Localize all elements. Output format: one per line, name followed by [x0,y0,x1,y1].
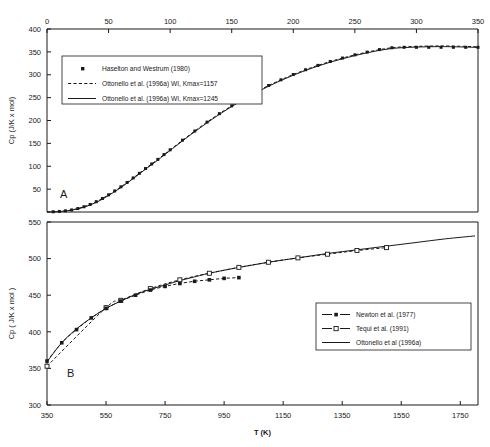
panel-b-datapoint-tequi [355,249,359,253]
panel-a-datapoint [181,139,184,142]
panel-a-datapoint [169,148,172,151]
panel-a-datapoint [366,51,369,54]
panel-a-datapoint [440,46,443,49]
panel-b-datapoint-newton [237,276,241,280]
panel-a-datapoint [70,208,73,211]
panel-b-yaxis-title: Cp ( J/K x mol ) [7,287,16,339]
panel-a-xtick-label: 50 [104,17,112,26]
panel-a-datapoint [206,121,209,124]
panel-a-ytick-label: 250 [28,93,41,102]
panel-b-datapoint-tequi [325,252,329,256]
panel-b-datapoint-tequi [45,364,49,368]
panel-b-xtick-label: 1350 [334,411,351,420]
panel-b-ytick-label: 300 [28,401,41,410]
panel-a-legend-marker [81,67,84,70]
panel-a-datapoint [126,181,129,184]
panel-a-datapoint [119,185,122,188]
panel-a-datapoint [162,153,165,156]
panel-a-datapoint [279,78,282,81]
panel-b-xtick-label: 1150 [275,411,291,420]
panel-a-ytick-label: 100 [28,162,41,171]
panel-b-ytick-label: 350 [28,364,41,373]
panel-b-legend-label: Newton et al. (1977) [356,311,415,319]
panel-a-legend-label: Haselton and Westrum (1980) [102,65,190,73]
panel-a-datapoint [378,48,381,51]
panel-a-datapoint [427,46,430,49]
panel-a-datapoint [218,112,221,115]
panel-a-datapoint [353,53,356,56]
panel-b-xtick-label: 350 [41,411,54,420]
panel-b-ytick-label: 400 [28,328,41,337]
panel-a-ytick-label: 400 [28,25,41,34]
panel-a-datapoint [52,210,55,213]
panel-a-datapoint [230,104,233,107]
panel-a-datapoint [89,203,92,206]
panel-a-datapoint [316,64,319,67]
panel-a: 0501001502002503003505010015020025030035… [7,17,484,213]
panel-b-xaxis-title: T (K) [254,428,272,437]
figure-root: 0501001502002503003505010015020025030035… [0,0,490,447]
panel-b-xtick-label: 950 [218,411,231,420]
panel-b-datapoint-newton [134,293,138,297]
panel-b-label: B [67,367,74,379]
panel-a-datapoint [64,209,67,212]
panel-b-datapoint-newton [89,316,93,320]
panel-b-datapoint-newton [149,288,153,292]
panel-a-datapoint [156,158,159,161]
panel-a-datapoint [58,210,61,213]
panel-b-datapoint-newton [178,282,182,286]
panel-a-datapoint [138,172,141,175]
panel-a-datapoint [390,46,393,49]
panel-b-datapoint-newton [75,328,79,332]
panel-b-datapoint-newton [104,307,108,311]
panel-a-yaxis-title: Cp (J/K x mol) [7,96,16,144]
panel-b-datapoint-newton [119,299,123,303]
panel-b-datapoint-newton [222,277,226,281]
panel-a-ytick-label: 50 [33,185,41,194]
panel-a-datapoint [82,205,85,208]
panel-b-datapoint-newton [208,278,212,282]
panel-b-datapoint-tequi [178,278,182,282]
panel-a-xtick-label: 300 [410,17,423,26]
panel-a-datapoint [477,46,480,49]
panel-a-xtick-label: 0 [45,17,49,26]
panel-b-legend-marker-filled [334,313,338,317]
panel-a-datapoint [464,46,467,49]
panel-b-ytick-label: 550 [28,218,41,227]
panel-a-datapoint [329,60,332,63]
panel-b-datapoint-tequi [384,246,388,250]
panel-a-datapoint [304,68,307,71]
panel-b-datapoint-tequi [266,260,270,264]
two-panel-heat-capacity-chart: 0501001502002503003505010015020025030035… [0,0,490,447]
panel-a-datapoint [76,207,79,210]
panel-b-ytick-label: 450 [28,291,41,300]
panel-a-datapoint [107,193,110,196]
panel-b-datapoint-newton [163,285,167,289]
panel-a-xtick-label: 100 [164,17,177,26]
panel-b: 3505507509501150135015501750300350400450… [7,218,478,437]
panel-b-datapoint-tequi [296,256,300,260]
panel-a-xtick-label: 250 [349,17,362,26]
panel-b-xtick-label: 1750 [452,411,469,420]
panel-b-ytick-label: 500 [28,254,41,263]
panel-a-datapoint [150,162,153,165]
panel-a-datapoint [144,167,147,170]
panel-a-datapoint [113,189,116,192]
panel-b-datapoint-newton [193,279,197,283]
panel-a-datapoint [101,197,104,200]
panel-b-datapoint-tequi [237,265,241,269]
panel-a-datapoint [193,130,196,133]
panel-a-datapoint [132,176,135,179]
panel-a-ytick-label: 150 [28,139,41,148]
panel-a-datapoint [403,46,406,49]
panel-b-datapoint-newton [45,359,49,363]
panel-b-xtick-label: 1550 [393,411,410,420]
panel-a-legend-label: Ottonello et al. (1996a) WI, Kmax=1245 [102,95,218,103]
panel-b-legend-label: Tequi et al. (1991) [356,325,409,333]
panel-a-xtick-label: 350 [472,17,485,26]
panel-a-xtick-label: 200 [287,17,300,26]
panel-b-legend-label: Ottonello et al (1996a) [356,339,421,347]
panel-a-ytick-label: 200 [28,116,41,125]
panel-a-label: A [60,188,68,200]
panel-a-datapoint [95,200,98,203]
